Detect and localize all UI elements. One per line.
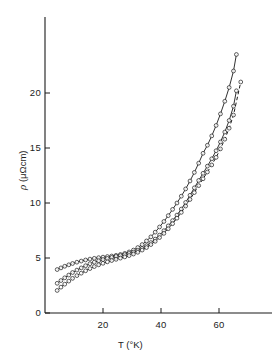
- data-point-marker: [97, 259, 101, 263]
- data-point-marker: [140, 248, 144, 252]
- data-point-marker: [184, 204, 188, 208]
- data-series-group: [55, 53, 242, 293]
- data-point-marker: [188, 198, 192, 202]
- data-point-marker: [219, 147, 223, 151]
- data-point-marker: [210, 163, 214, 167]
- y-axis-title: ρ (μΩcm): [16, 151, 28, 191]
- data-point-marker: [206, 164, 210, 168]
- data-point-marker: [145, 239, 149, 243]
- x-tick-label: 60: [210, 319, 228, 330]
- data-series: [55, 53, 238, 272]
- plot-canvas: [0, 0, 278, 364]
- data-point-marker: [214, 149, 218, 153]
- data-point-marker: [79, 271, 83, 275]
- data-point-marker: [63, 276, 67, 280]
- data-point-marker: [227, 119, 231, 123]
- data-point-marker: [84, 264, 88, 268]
- y-axis-title-symbol: ρ: [16, 185, 28, 190]
- data-point-marker: [166, 214, 170, 218]
- data-point-marker: [184, 187, 188, 191]
- data-point-marker: [175, 216, 179, 220]
- data-point-marker: [97, 263, 101, 267]
- data-point-marker: [55, 281, 59, 285]
- data-point-marker: [92, 260, 96, 264]
- series-line: [57, 91, 236, 283]
- data-point-marker: [210, 157, 214, 161]
- data-point-marker: [201, 171, 205, 175]
- x-axis-ticks: [103, 308, 219, 313]
- y-tick-label: 10: [27, 197, 41, 208]
- data-point-marker: [67, 263, 71, 267]
- data-point-marker: [140, 243, 144, 247]
- data-point-marker: [88, 257, 92, 261]
- data-point-marker: [71, 262, 75, 266]
- x-tick-label: 20: [94, 319, 112, 330]
- data-point-marker: [153, 230, 157, 234]
- resistivity-figure: 05101520 204060 ρ (μΩcm) T (°K): [0, 0, 278, 364]
- data-point-marker: [101, 258, 105, 262]
- data-point-marker: [201, 177, 205, 181]
- data-point-marker: [92, 265, 96, 269]
- data-point-marker: [192, 186, 196, 190]
- data-point-marker: [55, 268, 59, 272]
- y-tick-label: 5: [27, 252, 41, 263]
- data-point-marker: [179, 210, 183, 214]
- data-point-marker: [232, 69, 236, 73]
- data-point-marker: [71, 276, 75, 280]
- data-point-marker: [232, 104, 236, 108]
- data-point-marker: [197, 161, 201, 165]
- data-point-marker: [184, 201, 188, 205]
- data-point-marker: [223, 130, 227, 134]
- data-point-marker: [219, 140, 223, 144]
- data-point-marker: [197, 179, 201, 183]
- data-point-marker: [175, 201, 179, 205]
- data-point-marker: [110, 259, 114, 263]
- data-point-marker: [171, 207, 175, 211]
- data-point-marker: [214, 124, 218, 128]
- data-point-marker: [149, 243, 153, 247]
- y-axis-ticks: [45, 93, 50, 313]
- data-point-marker: [119, 256, 123, 260]
- data-point-marker: [55, 289, 59, 293]
- data-point-marker: [114, 257, 118, 261]
- data-point-marker: [227, 126, 231, 130]
- data-point-marker: [171, 222, 175, 226]
- data-point-marker: [101, 261, 105, 265]
- data-point-marker: [67, 273, 71, 277]
- data-point-marker: [158, 225, 162, 229]
- data-point-marker: [223, 137, 227, 141]
- data-point-marker: [123, 255, 127, 259]
- data-point-marker: [162, 231, 166, 235]
- data-point-marker: [132, 252, 136, 256]
- data-point-marker: [201, 151, 205, 155]
- data-point-marker: [84, 258, 88, 262]
- y-tick-label: 15: [27, 142, 41, 153]
- data-point-marker: [149, 235, 153, 239]
- data-point-marker: [239, 80, 243, 84]
- data-point-marker: [206, 170, 210, 174]
- data-point-marker: [158, 236, 162, 240]
- data-point-marker: [105, 260, 109, 264]
- x-axis-title: T (°K): [118, 339, 143, 350]
- data-point-marker: [136, 250, 140, 254]
- data-point-marker: [79, 259, 83, 263]
- y-axis-title-units: (μΩcm): [17, 151, 28, 183]
- data-point-marker: [227, 86, 231, 90]
- data-point-marker: [59, 285, 63, 289]
- data-point-marker: [188, 179, 192, 183]
- data-point-marker: [179, 194, 183, 198]
- data-series: [55, 89, 238, 285]
- data-point-marker: [235, 53, 239, 57]
- y-tick-label: 0: [27, 307, 41, 318]
- x-tick-label: 40: [152, 319, 170, 330]
- data-point-marker: [162, 220, 166, 224]
- data-point-marker: [145, 246, 149, 250]
- y-tick-label: 20: [27, 87, 41, 98]
- data-point-marker: [75, 274, 79, 278]
- data-point-marker: [166, 227, 170, 231]
- data-point-marker: [235, 89, 239, 93]
- data-point-marker: [75, 260, 79, 264]
- data-point-marker: [192, 171, 196, 175]
- data-point-marker: [153, 239, 157, 243]
- data-point-marker: [63, 264, 67, 268]
